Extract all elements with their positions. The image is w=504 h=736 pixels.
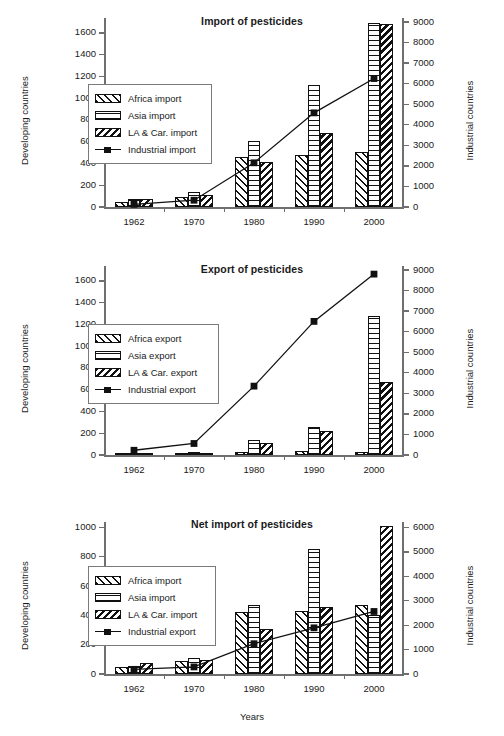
chart-panel-import: Import of pesticides Developing countrie…: [0, 0, 504, 248]
legend-row: LA & Car. export: [95, 364, 211, 381]
x-axis: [104, 674, 404, 676]
y-tick-label-left: 0: [48, 449, 96, 460]
y-tick-label-left: 800: [48, 550, 96, 561]
y-tick-label-right: 6000: [413, 77, 457, 88]
y-tick-right: [404, 104, 409, 105]
x-tick: [284, 674, 285, 679]
y-tick-right: [404, 372, 409, 373]
y-tick-right: [404, 62, 409, 63]
y-axis-label-right: Industrial countries: [464, 546, 475, 666]
bar: [355, 452, 367, 455]
x-tick-label: 1980: [224, 216, 284, 227]
legend-label: Africa import: [128, 93, 181, 104]
y-tick-right: [404, 527, 409, 528]
bar: [175, 453, 187, 455]
y-tick-label-right: 9000: [413, 264, 457, 275]
y-tick-label-right: 3000: [413, 387, 457, 398]
bar: [320, 133, 332, 207]
x-tick: [284, 455, 285, 460]
bar: [308, 85, 320, 207]
y-tick-label-left: 400: [48, 405, 96, 416]
y-tick-label-left: 1200: [48, 70, 96, 81]
y-tick-left: [99, 54, 104, 55]
line-marker: [371, 271, 378, 278]
x-tick-label: 1980: [224, 683, 284, 694]
y-tick-right: [404, 393, 409, 394]
y-tick-label-left: 200: [48, 427, 96, 438]
bar: [115, 667, 127, 674]
legend-line-marker-icon: [95, 385, 121, 394]
figure-root: Import of pesticides Developing countrie…: [0, 0, 504, 736]
bar: [260, 629, 272, 674]
bar: [115, 453, 127, 455]
chart-panel-export: Export of pesticides Developing countrie…: [0, 248, 504, 496]
y-tick-label-left: 1400: [48, 296, 96, 307]
y-tick-left: [99, 454, 104, 455]
y-tick-right: [404, 83, 409, 84]
bar: [368, 615, 380, 674]
legend: Africa exportAsia exportLA & Car. export…: [88, 324, 219, 404]
x-tick-label: 1962: [104, 216, 164, 227]
bar: [200, 195, 212, 207]
y-axis-right: [402, 522, 404, 674]
bar: [295, 155, 307, 207]
y-tick-label-left: 1600: [48, 274, 96, 285]
x-tick-label: 1990: [284, 216, 344, 227]
x-tick: [164, 207, 165, 212]
legend: Africa importAsia importLA & Car. import…: [88, 566, 216, 646]
x-tick-label: 1990: [284, 464, 344, 475]
y-tick-right: [404, 165, 409, 166]
x-tick-label: 2000: [344, 216, 404, 227]
legend-line-marker-icon: [95, 627, 121, 636]
y-tick-right: [404, 21, 409, 22]
y-tick-right: [404, 625, 409, 626]
x-tick-label: 1962: [104, 683, 164, 694]
x-tick-label: 1970: [164, 683, 224, 694]
legend-label: Industrial export: [128, 384, 196, 395]
bar: [320, 607, 332, 674]
line-marker: [191, 440, 198, 447]
x-tick: [164, 455, 165, 460]
legend-row: Africa export: [95, 330, 211, 347]
x-tick: [164, 674, 165, 679]
y-axis-right: [402, 18, 404, 207]
bar: [128, 453, 140, 455]
y-tick-left: [99, 280, 104, 281]
y-tick-right: [404, 673, 409, 674]
y-tick-label-right: 3000: [413, 139, 457, 150]
y-axis-label-left: Developing countries: [19, 309, 30, 429]
bar: [368, 23, 380, 207]
legend-row: Asia import: [95, 589, 208, 606]
legend-label: LA & Car. export: [128, 367, 197, 378]
x-tick: [224, 674, 225, 679]
x-tick-label: 1990: [284, 683, 344, 694]
y-tick-right: [404, 145, 409, 146]
legend-row: Industrial import: [95, 141, 204, 158]
y-tick-right: [404, 310, 409, 311]
y-tick-label-right: 5000: [413, 346, 457, 357]
y-tick-label-right: 7000: [413, 57, 457, 68]
x-axis-title: Years: [0, 711, 504, 722]
y-tick-left: [99, 32, 104, 33]
y-tick-left: [99, 433, 104, 434]
bar: [380, 382, 392, 455]
bar: [200, 453, 212, 455]
legend-swatch-icon: [95, 576, 121, 585]
y-axis-label-left: Developing countries: [19, 546, 30, 666]
y-tick-label-left: 0: [48, 668, 96, 679]
legend-swatch-icon: [95, 111, 121, 120]
y-tick-label-left: 1000: [48, 521, 96, 532]
bar: [248, 440, 260, 455]
y-tick-label-right: 9000: [413, 16, 457, 27]
y-tick-label-right: 6000: [413, 521, 457, 532]
x-tick-label: 1980: [224, 464, 284, 475]
bar: [115, 202, 127, 207]
bar: [235, 612, 247, 674]
y-tick-left: [99, 185, 104, 186]
bar: [355, 605, 367, 674]
y-tick-right: [404, 124, 409, 125]
y-tick-label-right: 7000: [413, 305, 457, 316]
y-tick-left: [99, 411, 104, 412]
legend: Africa importAsia importLA & Car. import…: [88, 84, 212, 164]
y-tick-label-left: 1600: [48, 26, 96, 37]
